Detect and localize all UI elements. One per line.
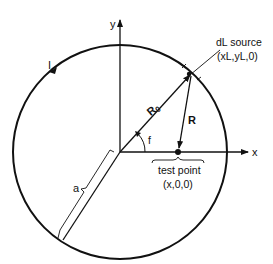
test-point-brace [152, 157, 204, 163]
source-point [187, 72, 191, 76]
angle-arc [138, 134, 145, 152]
source-title: dL source [216, 36, 262, 48]
test-point [175, 149, 181, 155]
y-axis-label: y [110, 18, 116, 30]
r-label: R [188, 114, 196, 126]
loop-diagram: y x I dL source (xL,yL,0) R0 R f a test … [0, 0, 273, 264]
radius-label: a [73, 182, 80, 194]
r0-label: R0 [144, 100, 163, 119]
test-point-title: test point [158, 164, 201, 176]
radius-brace [58, 150, 114, 238]
current-label: I [48, 59, 51, 71]
r-vector [179, 76, 191, 148]
angle-label: f [148, 134, 151, 146]
radius-line [63, 152, 120, 240]
source-leader-line [190, 50, 220, 75]
source-coords: (xL,yL,0) [217, 50, 258, 62]
test-point-coords: (x,0,0) [163, 178, 193, 190]
x-axis-label: x [252, 146, 258, 158]
